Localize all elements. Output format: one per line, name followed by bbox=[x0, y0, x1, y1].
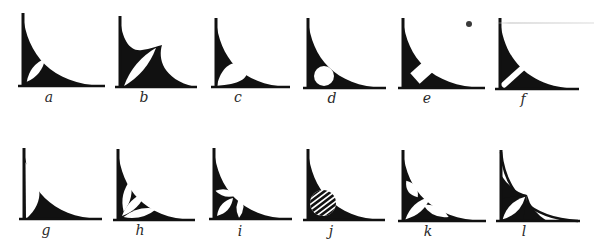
figure-label-e: e bbox=[423, 91, 431, 105]
figure-d bbox=[303, 18, 386, 88]
figure-j bbox=[277, 149, 385, 229]
ink-smudge bbox=[466, 21, 472, 27]
figure-f bbox=[495, 18, 579, 89]
scan-artifact-line bbox=[495, 22, 594, 24]
figure-b bbox=[115, 16, 197, 89]
figure-label-i: i bbox=[238, 224, 242, 238]
figure-label-k: k bbox=[424, 224, 432, 238]
figure-label-h: h bbox=[135, 223, 144, 237]
figure-label-a: a bbox=[45, 90, 53, 104]
figure-label-g: g bbox=[42, 223, 51, 237]
figure-a bbox=[18, 13, 105, 86]
figure-label-l: l bbox=[522, 224, 526, 238]
figure-label-b: b bbox=[140, 90, 149, 104]
figure-h bbox=[113, 149, 195, 221]
figure-l bbox=[496, 150, 580, 222]
figure-i bbox=[209, 148, 292, 219]
figure-label-c: c bbox=[234, 90, 242, 104]
figure-label-f: f bbox=[520, 92, 525, 106]
spandrel-figures bbox=[0, 0, 594, 244]
figure-g bbox=[19, 148, 102, 219]
figure-e bbox=[398, 18, 485, 88]
figure-label-d: d bbox=[328, 91, 337, 105]
figure-c bbox=[211, 18, 290, 87]
figure-k bbox=[398, 150, 486, 223]
diagram-canvas: a b c d e f g h i j k l bbox=[0, 0, 594, 244]
figure-label-j: j bbox=[329, 224, 333, 238]
